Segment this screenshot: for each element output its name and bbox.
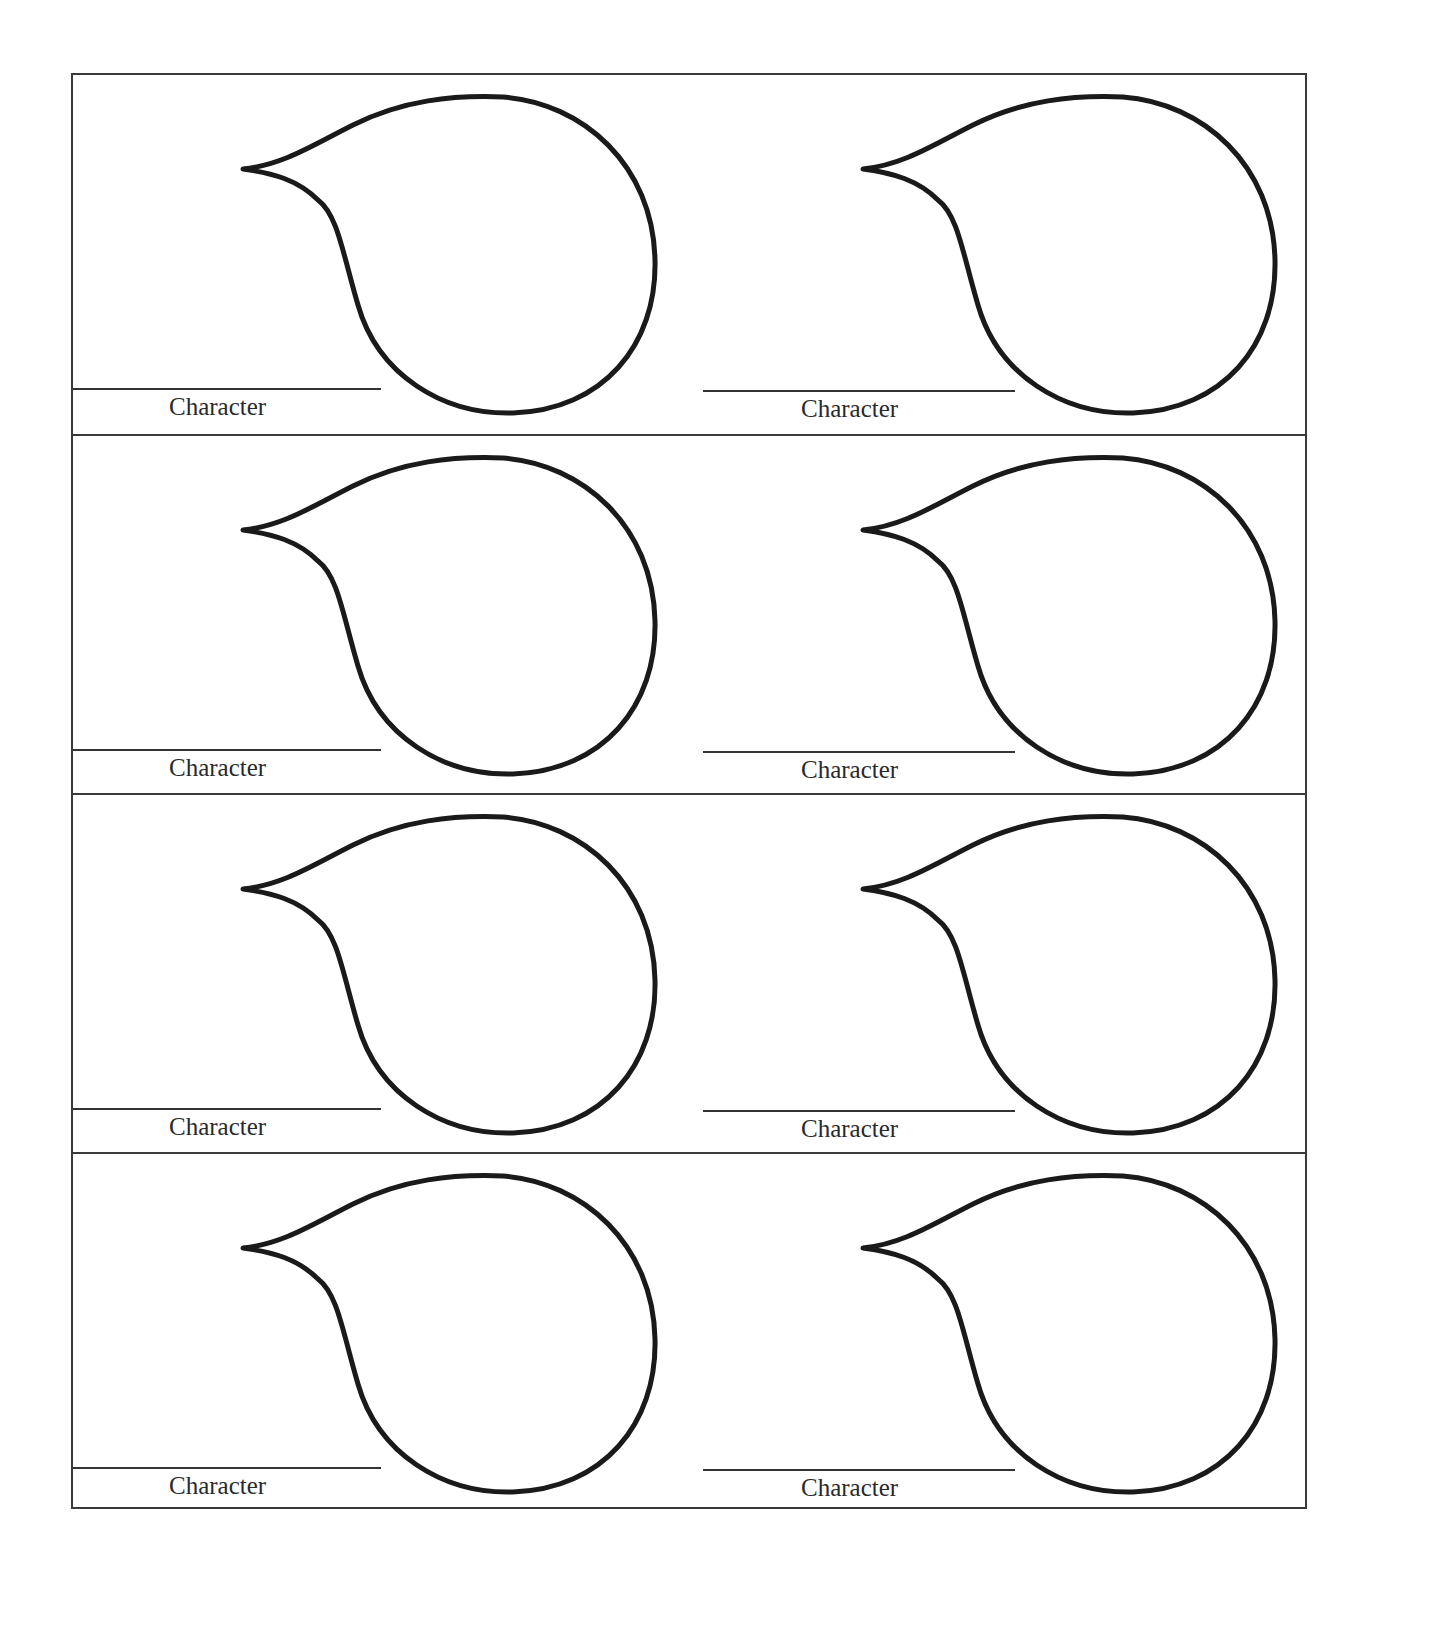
name-underline	[703, 1110, 1015, 1112]
worksheet-row: Character Character	[73, 1152, 1305, 1511]
bubble-cell: Character	[73, 75, 691, 434]
worksheet-row: Character Character	[73, 75, 1305, 434]
name-underline	[73, 1467, 381, 1469]
bubble-cell: Character	[73, 1154, 691, 1511]
character-label: Character	[169, 1113, 266, 1141]
character-label: Character	[801, 756, 898, 784]
speech-bubble-icon	[843, 795, 1283, 1154]
bubble-cell: Character	[73, 795, 691, 1152]
character-label: Character	[169, 393, 266, 421]
character-label: Character	[801, 395, 898, 423]
character-label: Character	[169, 754, 266, 782]
name-underline	[73, 388, 381, 390]
worksheet-frame: Character Character Character Character	[71, 73, 1307, 1509]
character-label: Character	[801, 1474, 898, 1502]
speech-bubble-icon	[223, 795, 663, 1154]
bubble-cell: Character	[73, 436, 691, 793]
bubble-cell: Character	[691, 795, 1309, 1152]
name-underline	[703, 390, 1015, 392]
speech-bubble-icon	[843, 75, 1283, 434]
name-underline	[73, 1108, 381, 1110]
speech-bubble-icon	[223, 75, 663, 434]
speech-bubble-icon	[223, 1154, 663, 1513]
speech-bubble-icon	[843, 436, 1283, 795]
name-underline	[703, 1469, 1015, 1471]
name-underline	[73, 749, 381, 751]
bubble-cell: Character	[691, 1154, 1309, 1511]
worksheet-row: Character Character	[73, 793, 1305, 1152]
worksheet-row: Character Character	[73, 434, 1305, 793]
speech-bubble-icon	[223, 436, 663, 795]
speech-bubble-icon	[843, 1154, 1283, 1513]
name-underline	[703, 751, 1015, 753]
character-label: Character	[169, 1472, 266, 1500]
bubble-cell: Character	[691, 436, 1309, 793]
character-label: Character	[801, 1115, 898, 1143]
bubble-cell: Character	[691, 75, 1309, 434]
